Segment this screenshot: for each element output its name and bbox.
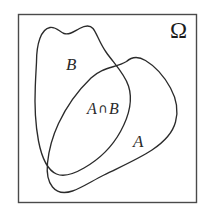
intersection-label: A∩B — [87, 101, 119, 117]
set-a-outline — [47, 58, 177, 193]
intersection-label-operand-left: A — [87, 100, 97, 117]
set-a-label: A — [133, 133, 143, 150]
venn-diagram-figure: Ω B A A∩B — [0, 0, 215, 220]
intersection-label-operand-right: B — [109, 100, 119, 117]
intersection-operator-icon: ∩ — [97, 101, 109, 116]
universe-label: Ω — [170, 19, 187, 42]
set-b-label: B — [66, 56, 76, 73]
